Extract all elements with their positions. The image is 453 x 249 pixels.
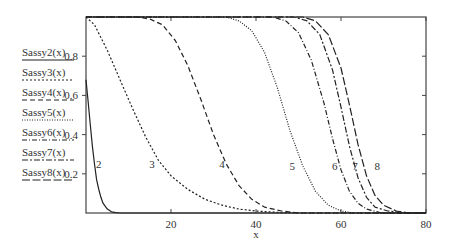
series-line-6 [86, 17, 426, 213]
x-tick-label: 60 [336, 218, 348, 230]
series-line-5 [86, 17, 426, 213]
curve-labels: 2345678 [96, 158, 380, 172]
curve-label-8: 8 [374, 160, 380, 172]
legend-item-sassy7: Sassy7(x) [22, 146, 65, 158]
legend-item-sassy6: Sassy6(x) [22, 126, 65, 138]
legend-item-sassy2: Sassy2(x) [22, 46, 65, 58]
y-tick-label: 0.4 [64, 129, 78, 141]
legend-item-sassy3: Sassy3(x) [22, 66, 65, 78]
legend-item-sassy8: Sassy8(x) [22, 166, 65, 178]
curve-label-2: 2 [96, 158, 102, 170]
legend-item-sassy5: Sassy5(x) [22, 106, 65, 118]
x-tick-label: 80 [421, 218, 433, 230]
series-line-4 [86, 17, 426, 213]
y-axis-ticks: 0.20.40.60.8 [64, 50, 426, 180]
curve-label-4: 4 [219, 158, 225, 170]
series-line-8 [86, 17, 426, 213]
y-tick-label: 0.2 [64, 168, 78, 180]
line-chart: 20406080 0.20.40.60.8 2345678 x [0, 0, 453, 249]
series-line-7 [86, 17, 426, 213]
plot-border [86, 17, 426, 213]
x-tick-label: 20 [166, 218, 178, 230]
series-lines [86, 17, 426, 213]
curve-label-5: 5 [289, 160, 295, 172]
curve-label-6: 6 [332, 160, 338, 172]
x-axis-label: x [253, 228, 259, 240]
plot-frame [86, 17, 426, 213]
legend-swatches [22, 60, 74, 180]
curve-label-3: 3 [149, 158, 155, 170]
legend-item-sassy4: Sassy4(x) [22, 86, 65, 98]
series-line-3 [86, 17, 426, 213]
curve-label-7: 7 [352, 160, 358, 172]
x-axis-ticks: 20406080 [166, 17, 433, 230]
series-line-2 [86, 80, 426, 213]
